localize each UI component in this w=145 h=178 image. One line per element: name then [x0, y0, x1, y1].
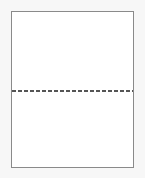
perforation-label: [12, 90, 13, 91]
sheet-bottom-panel-content: [12, 92, 13, 93]
sheet-top-panel[interactable]: [12, 12, 133, 90]
page-canvas: [0, 0, 145, 178]
sheet-bottom-panel[interactable]: [12, 92, 133, 167]
sheet-top-panel-content: [12, 12, 13, 13]
paper-sheet[interactable]: [11, 11, 134, 168]
